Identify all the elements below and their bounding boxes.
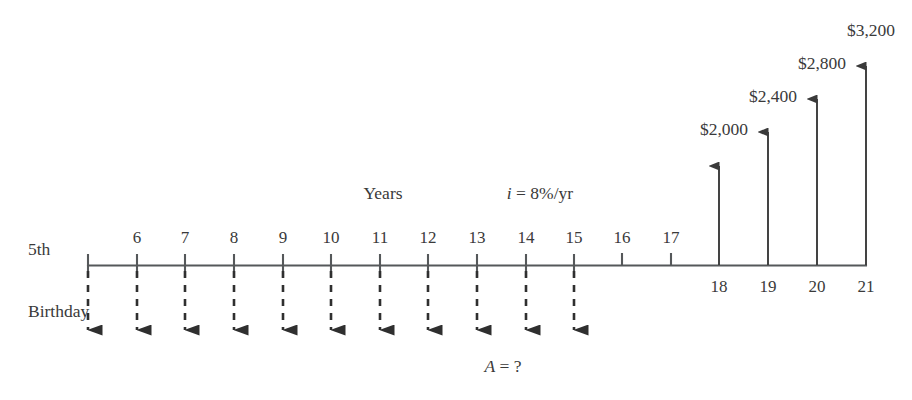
origin-label: 5th Birthday — [28, 198, 89, 363]
unknown-annuity-value: = ? — [495, 356, 521, 376]
origin-label-line1: 5th — [28, 239, 89, 260]
tick-label-period-18: 18 — [711, 277, 728, 297]
tick-label-period-19: 19 — [760, 277, 777, 297]
inflow-value-label-period-19: $2,400 — [749, 86, 797, 107]
tick-label-period-9: 9 — [279, 228, 288, 248]
tick-label-period-8: 8 — [230, 228, 239, 248]
tick-label-period-14: 14 — [518, 228, 535, 248]
timeline-ticks-short — [622, 253, 671, 265]
cash-flow-diagram: 5th Birthday Years i = 8%/yr A = ? 6 7 8… — [0, 0, 912, 400]
tick-label-period-13: 13 — [469, 228, 486, 248]
tick-label-period-11: 11 — [372, 228, 388, 248]
unknown-annuity-caption: A = ? — [484, 356, 521, 377]
tick-label-period-17: 17 — [663, 228, 680, 248]
tick-label-period-10: 10 — [323, 228, 340, 248]
interest-rate-value: = 8%/yr — [512, 183, 573, 203]
tick-label-period-16: 16 — [614, 228, 631, 248]
inflow-value-label-period-18: $2,000 — [700, 119, 748, 140]
tick-label-period-15: 15 — [566, 228, 583, 248]
unknown-annuity-symbol: A — [484, 356, 495, 376]
interest-rate-caption: i = 8%/yr — [507, 183, 573, 204]
tick-label-period-20: 20 — [809, 277, 826, 297]
inflow-value-label-period-21: $3,200 — [847, 20, 895, 41]
inflow-value-label-period-20: $2,800 — [798, 53, 846, 74]
tick-label-period-6: 6 — [133, 228, 142, 248]
tick-label-period-12: 12 — [420, 228, 437, 248]
tick-label-period-21: 21 — [858, 277, 875, 297]
cash-flow-svg-canvas — [0, 0, 912, 400]
origin-label-line2: Birthday — [28, 301, 89, 322]
years-caption: Years — [363, 183, 402, 204]
outflow-arrow-group — [88, 271, 574, 330]
tick-label-period-7: 7 — [181, 228, 190, 248]
